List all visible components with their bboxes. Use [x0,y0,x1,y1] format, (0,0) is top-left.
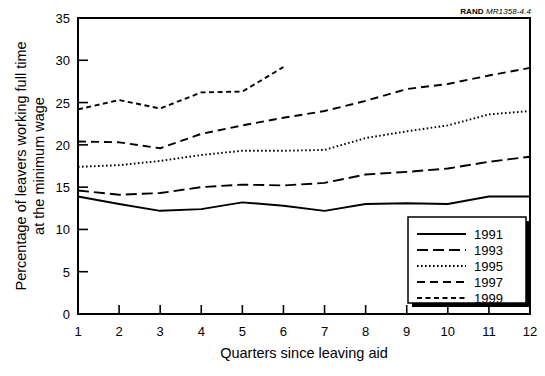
y-tick-label: 10 [56,222,70,237]
x-tick-label: 2 [115,324,122,339]
y-tick-label: 15 [56,180,70,195]
legend-label-1995: 1995 [474,259,503,274]
x-tick-label: 1 [74,324,81,339]
x-tick-label: 12 [523,324,537,339]
y-tick-label: 25 [56,96,70,111]
y-tick-label: 0 [63,307,70,322]
x-tick-label: 9 [403,324,410,339]
y-tick-label: 35 [56,11,70,26]
x-tick-label: 7 [321,324,328,339]
x-tick-label: 4 [198,324,205,339]
x-tick-label: 8 [362,324,369,339]
legend-label-1991: 1991 [474,227,503,242]
y-axis-title-line-2: at the minimum wage [31,97,47,235]
legend-label-1993: 1993 [474,243,503,258]
chart-figure: RAND MR1358-4.4 05101520253035 123456789… [0,0,545,376]
x-tick-label: 3 [157,324,164,339]
x-tick-label: 11 [482,324,496,339]
y-tick-label: 20 [56,138,70,153]
chart-legend: 19911993199519971999 [408,217,530,307]
y-axis-title-line-1: Percentage of leavers working full time [13,41,29,290]
line-chart: 05101520253035 123456789101112 Quarters … [0,0,545,376]
y-tick-label: 30 [56,53,70,68]
y-axis-tick-labels: 05101520253035 [56,11,70,322]
legend-label-1999: 1999 [474,291,503,306]
x-tick-label: 5 [239,324,246,339]
legend-box [408,217,526,303]
y-tick-label: 5 [63,265,70,280]
x-tick-label: 10 [441,324,455,339]
x-axis-tick-labels: 123456789101112 [74,324,537,339]
x-axis-title: Quarters since leaving aid [220,345,388,361]
legend-label-1997: 1997 [474,275,503,290]
x-tick-label: 6 [280,324,287,339]
